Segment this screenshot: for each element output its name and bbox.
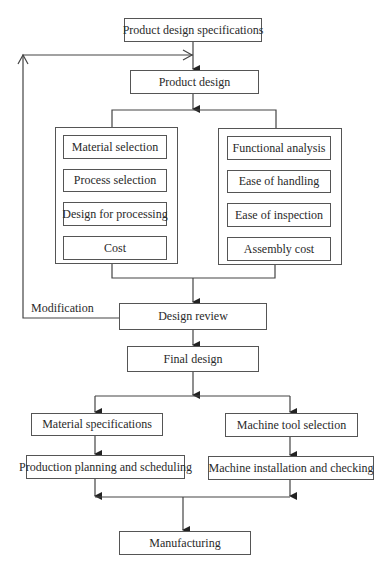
machine-tool-selection-node: Machine tool selection [225, 413, 358, 437]
assembly-cost-node: Assembly cost [227, 237, 331, 261]
cost-node: Cost [63, 236, 167, 260]
functional-analysis-node: Functional analysis [227, 136, 331, 160]
assembly-considerations-group: Functional analysis Ease of handling Eas… [218, 128, 342, 265]
design-for-processing-node: Design for processing [63, 202, 167, 226]
final-design-node: Final design [127, 346, 259, 372]
modification-label: Modification [31, 301, 94, 316]
machine-installation-node: Machine installation and checking [208, 456, 374, 480]
manufacturing-node: Manufacturing [119, 531, 251, 555]
product-design-specifications-node: Product design specifications [124, 18, 262, 42]
ease-of-handling-node: Ease of handling [227, 170, 331, 193]
product-design-node: Product design [130, 70, 259, 94]
material-selection-node: Material selection [63, 135, 167, 159]
manufacturing-considerations-group: Material selection Process selection Des… [55, 127, 178, 264]
production-planning-node: Production planning and scheduling [26, 455, 185, 479]
process-selection-node: Process selection [63, 169, 167, 192]
ease-of-inspection-node: Ease of inspection [227, 203, 331, 227]
material-specifications-node: Material specifications [31, 413, 163, 436]
design-review-node: Design review [119, 303, 267, 330]
